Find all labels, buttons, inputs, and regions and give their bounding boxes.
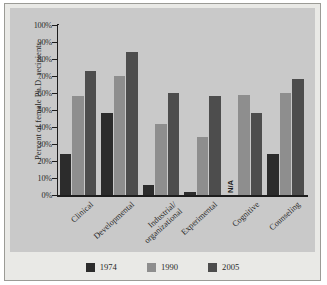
bar-missing-label: N/A xyxy=(226,180,238,193)
chart-legend: 197419902005 xyxy=(10,256,315,278)
bar xyxy=(267,154,279,195)
chart-figure: Percent of female Ph.D. recipients 100%9… xyxy=(4,3,321,281)
x-axis-category-label: Counseling xyxy=(268,200,302,232)
legend-label: 1990 xyxy=(161,262,178,272)
legend-swatch xyxy=(208,263,217,272)
y-axis-tick-label: 0% xyxy=(10,191,52,200)
x-axis-category-label-line: Experimental xyxy=(180,200,220,237)
bar xyxy=(280,93,292,195)
legend-swatch xyxy=(147,263,156,272)
x-axis-category-label: Clinical xyxy=(69,200,95,224)
y-axis-tick-label: 20% xyxy=(10,157,52,166)
x-axis-category-label: Developmental xyxy=(92,200,136,241)
bar xyxy=(292,79,304,195)
y-axis-tick-label: 40% xyxy=(10,123,52,132)
plot-area: N/A xyxy=(58,25,307,195)
y-axis-tick-label: 60% xyxy=(10,89,52,98)
y-axis-tick-label: 30% xyxy=(10,140,52,149)
y-axis-tick-label: 90% xyxy=(10,38,52,47)
x-axis-category-label: Cognitive xyxy=(230,200,261,229)
y-axis-tick-label: 10% xyxy=(10,174,52,183)
bar xyxy=(155,124,167,195)
x-axis-category-label-line: Counseling xyxy=(268,200,302,232)
y-axis-tick-label: 80% xyxy=(10,55,52,64)
chart-panel: Percent of female Ph.D. recipients 100%9… xyxy=(10,8,315,252)
legend-swatch xyxy=(86,263,95,272)
legend-item: 2005 xyxy=(208,262,239,272)
y-axis-tick-label: 100% xyxy=(10,21,52,30)
y-axis-tick-label: 50% xyxy=(10,106,52,115)
x-axis-category-label: Experimental xyxy=(180,200,220,237)
bar xyxy=(126,52,138,195)
legend-item: 1990 xyxy=(147,262,178,272)
legend-label: 2005 xyxy=(222,262,239,272)
x-axis-category-label: Industrial/organizational xyxy=(136,200,184,245)
bar xyxy=(251,113,263,195)
x-axis-category-label-line: Clinical xyxy=(69,200,95,224)
x-axis-line xyxy=(57,195,308,197)
bar xyxy=(85,71,97,195)
bar xyxy=(143,185,155,195)
bar xyxy=(238,95,250,195)
bar xyxy=(184,192,196,195)
bar xyxy=(114,76,126,195)
bar xyxy=(168,93,180,195)
x-axis-category-label-line: Cognitive xyxy=(230,200,261,229)
bar xyxy=(72,96,84,195)
legend-item: 1974 xyxy=(86,262,117,272)
bar xyxy=(101,113,113,195)
legend-label: 1974 xyxy=(100,262,117,272)
bar xyxy=(197,137,209,195)
y-axis-tick-label: 70% xyxy=(10,72,52,81)
bar xyxy=(209,96,221,195)
bar xyxy=(60,154,72,195)
x-axis-category-label-line: Developmental xyxy=(92,200,136,241)
